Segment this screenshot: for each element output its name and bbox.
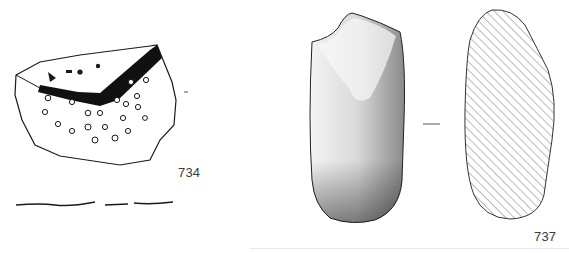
bottom-rule <box>250 248 569 249</box>
figure-737-front-drawing <box>290 0 440 240</box>
figure-737-section-drawing <box>440 0 569 230</box>
figure-number-734: 734 <box>178 165 200 180</box>
figure-number-737: 737 <box>534 229 556 244</box>
section-outline <box>465 10 554 219</box>
scale-bar <box>16 202 173 206</box>
figure-734-drawing <box>0 0 230 220</box>
